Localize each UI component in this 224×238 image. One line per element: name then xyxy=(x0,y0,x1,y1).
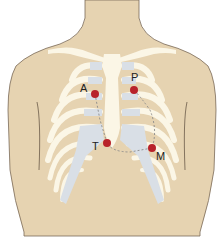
label-mitral: M xyxy=(156,151,165,162)
chest-illustration xyxy=(0,0,224,238)
point-aortic xyxy=(91,90,99,98)
point-pulmonic xyxy=(130,86,138,94)
point-tricuspid xyxy=(103,139,111,147)
label-tricuspid: T xyxy=(92,141,99,152)
label-pulmonic: P xyxy=(131,72,138,83)
point-mitral xyxy=(148,144,156,152)
label-aortic: A xyxy=(80,83,87,94)
